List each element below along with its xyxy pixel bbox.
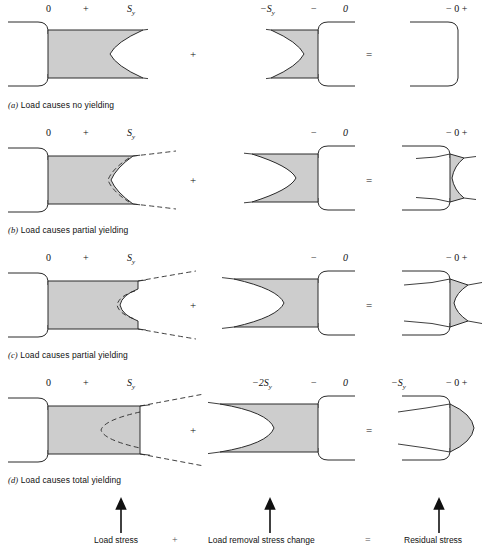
row-d-residual-stress-plot bbox=[396, 374, 492, 474]
operator-plus-row-c: + bbox=[190, 299, 196, 311]
operator-plus-row-a: + bbox=[190, 48, 196, 60]
row-b-caption-prefix: (b) bbox=[8, 225, 18, 235]
arrow-load-stress bbox=[117, 499, 126, 533]
operator-plus-row-d: + bbox=[190, 424, 196, 436]
operator-equals-row-b: = bbox=[366, 174, 372, 186]
operator-equals-row-a: = bbox=[366, 48, 372, 60]
row-d-caption-text: Load causes total yielding bbox=[21, 475, 121, 485]
footer-label-load-removal: Load removal stress change bbox=[208, 535, 315, 545]
figure-footer: Load stress + Load removal stress change… bbox=[0, 495, 492, 547]
operator-equals-row-d: = bbox=[366, 424, 372, 436]
operator-equals-row-c: = bbox=[366, 299, 372, 311]
row-d-caption-prefix: (d) bbox=[8, 475, 18, 485]
row-a-caption-text: Load causes no yielding bbox=[21, 100, 115, 110]
figure-row-a: 0 + Sy + −Sy − 0 = − 0 + (a) bbox=[0, 0, 492, 118]
row-b-caption-text: Load causes partial yielding bbox=[21, 225, 129, 235]
row-c-residual-stress-plot bbox=[396, 249, 492, 349]
footer-operator-plus: + bbox=[172, 534, 178, 545]
row-b-load-removal-plot bbox=[240, 124, 370, 224]
row-a-caption-prefix: (a) bbox=[8, 100, 18, 110]
row-a-load-removal-plot bbox=[240, 0, 370, 100]
row-c-load-removal-plot bbox=[228, 249, 370, 349]
row-d-load-stress-plot bbox=[0, 374, 220, 474]
row-c-load-stress-plot bbox=[0, 249, 210, 349]
arrow-load-removal bbox=[266, 499, 275, 533]
footer-label-residual-stress: Residual stress bbox=[404, 535, 462, 545]
row-d-caption: (d) Load causes total yielding bbox=[8, 475, 121, 485]
row-b-caption: (b) Load causes partial yielding bbox=[8, 225, 128, 235]
figure-row-c: 0 + Sy + − 0 = − 0 + bbox=[0, 249, 492, 369]
row-a-residual-stress-plot bbox=[400, 0, 492, 100]
figure-row-d: 0 + Sy + −2Sy − 0 = −Sy − 0 + bbox=[0, 374, 492, 494]
row-a-caption: (a) Load causes no yielding bbox=[8, 100, 114, 110]
row-d-load-removal-plot bbox=[222, 374, 370, 474]
figure-row-b: 0 + Sy + − 0 = − 0 + bbox=[0, 124, 492, 244]
footer-operator-equals: = bbox=[365, 534, 371, 545]
footer-label-load-stress: Load stress bbox=[94, 535, 138, 545]
row-c-caption-text: Load causes partial yielding bbox=[20, 350, 128, 360]
row-b-load-stress-plot bbox=[0, 124, 200, 224]
row-c-caption-prefix: (c) bbox=[8, 350, 18, 360]
row-b-residual-stress-plot bbox=[396, 124, 492, 224]
row-a-load-stress-plot bbox=[0, 0, 190, 100]
row-c-caption: (c) Load causes partial yielding bbox=[8, 350, 128, 360]
arrow-residual bbox=[435, 499, 444, 533]
operator-plus-row-b: + bbox=[190, 174, 196, 186]
